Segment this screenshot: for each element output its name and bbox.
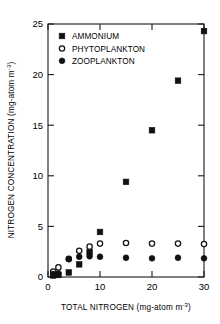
data-point — [66, 256, 72, 262]
x-tick-label: 30 — [199, 281, 210, 292]
data-point — [175, 241, 180, 246]
svg-text:NITROGEN CONCENTRATION (mg-ato: NITROGEN CONCENTRATION (mg-atom m-3) — [6, 62, 16, 239]
data-point — [87, 253, 93, 259]
y-tick-label: 0 — [38, 271, 43, 282]
legend-label: PHYTOPLANKTON — [72, 45, 145, 54]
x-axis-title: TOTAL NITROGEN (mg-atom m-3) — [61, 302, 191, 312]
y-tick-label: 25 — [32, 18, 43, 29]
series-zooplankton — [50, 253, 207, 277]
x-tick-label: 20 — [147, 281, 158, 292]
data-point — [149, 241, 154, 246]
data-point — [175, 78, 181, 84]
x-tick-label: 0 — [45, 281, 50, 292]
legend-marker-filled-square — [59, 33, 65, 39]
y-axis-title: NITROGEN CONCENTRATION (mg-atom m-3) — [6, 62, 16, 239]
data-point — [175, 255, 181, 261]
chart-legend: AMMONIUMPHYTOPLANKTONZOOPLANKTON — [59, 32, 145, 66]
data-point — [76, 262, 82, 268]
legend-marker-open-circle — [59, 46, 64, 51]
data-point — [87, 244, 92, 249]
nitrogen-concentration-chart: 0510152025 0102030 AMMONIUMPHYTOPLANKTON… — [0, 0, 220, 324]
y-tick-label: 20 — [32, 69, 43, 80]
y-tick-label: 10 — [32, 170, 43, 181]
x-axis-tick-labels: 0102030 — [45, 281, 209, 292]
data-point — [123, 240, 128, 245]
data-point — [149, 127, 155, 133]
chart-canvas: 0510152025 0102030 AMMONIUMPHYTOPLANKTON… — [0, 0, 220, 324]
legend-marker-filled-circle — [59, 58, 65, 64]
x-tick-label: 10 — [95, 281, 106, 292]
svg-text:TOTAL NITROGEN (mg-atom m-3): TOTAL NITROGEN (mg-atom m-3) — [61, 302, 191, 312]
y-axis-tick-labels: 0510152025 — [32, 18, 43, 282]
legend-label: AMMONIUM — [72, 32, 119, 41]
data-point — [149, 255, 155, 261]
data-point — [77, 248, 82, 253]
data-point — [123, 255, 129, 261]
legend-label: ZOOPLANKTON — [72, 57, 135, 66]
data-point — [76, 254, 82, 260]
y-tick-label: 5 — [38, 221, 43, 232]
data-point — [50, 271, 56, 277]
data-point — [97, 241, 102, 246]
data-point — [201, 241, 206, 246]
data-point — [97, 229, 103, 235]
data-point — [56, 271, 62, 277]
data-point — [201, 28, 207, 34]
data-point — [66, 270, 72, 276]
data-point — [56, 265, 61, 270]
data-point — [97, 254, 103, 260]
data-point — [123, 179, 129, 185]
y-tick-label: 15 — [32, 120, 43, 131]
data-point — [201, 255, 207, 261]
